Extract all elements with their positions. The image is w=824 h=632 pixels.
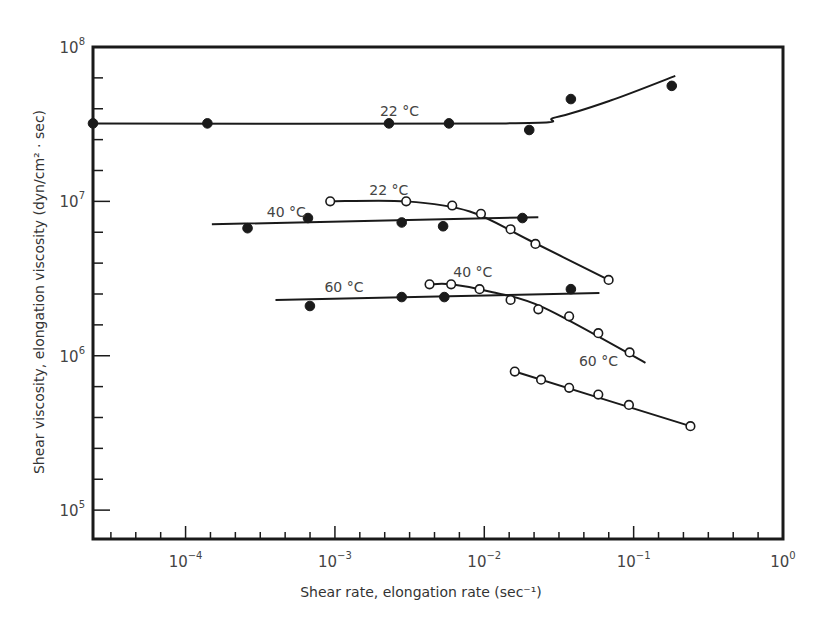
open-data-point [594, 329, 603, 338]
curve-label: 22 °C [369, 182, 408, 198]
open-data-point [326, 197, 335, 206]
filled-data-point [305, 301, 315, 311]
open-data-point [448, 201, 457, 210]
open-data-point [565, 312, 574, 321]
open-data-point [425, 280, 434, 289]
curve-label: 40 °C [267, 204, 306, 220]
filled-data-point [566, 94, 576, 104]
filled-data-point [518, 213, 528, 223]
filled-data-point [88, 119, 98, 129]
filled-data-point [397, 292, 407, 302]
filled-data-point [397, 218, 407, 228]
curve-labels: 22 °C40 °C60 °C22 °C40 °C60 °C [267, 103, 618, 368]
open-data-point [686, 422, 695, 431]
fit-curves [93, 76, 690, 426]
data-points [88, 81, 695, 430]
plot-border [93, 47, 783, 539]
curve-label: 60 °C [324, 279, 363, 295]
filled-data-point [438, 221, 448, 231]
fit-curve [212, 217, 538, 224]
x-tick-label: 10−3 [318, 550, 352, 571]
open-data-point [565, 383, 574, 392]
y-axis-ticks: 105106107108 [60, 36, 110, 520]
open-data-point [402, 197, 411, 206]
open-data-point [537, 375, 546, 384]
filled-data-point [440, 292, 450, 302]
plot-frame [93, 47, 783, 539]
filled-data-point [667, 81, 677, 91]
open-data-point [531, 240, 540, 249]
y-tick-label: 106 [60, 345, 85, 366]
viscosity-chart: 10−410−310−210−1100 105106107108 22 °C40… [0, 0, 824, 632]
curve-label: 22 °C [380, 103, 419, 119]
open-data-point [625, 401, 634, 410]
filled-data-point [444, 119, 454, 129]
open-data-point [510, 367, 519, 376]
y-tick-label: 107 [60, 190, 85, 211]
open-data-point [475, 285, 484, 294]
filled-data-point [524, 125, 534, 135]
x-axis-ticks: 10−410−310−210−1100 [111, 526, 796, 571]
curve-label: 60 °C [579, 353, 618, 369]
open-data-point [506, 296, 515, 305]
open-data-point [477, 210, 486, 219]
x-axis-title: Shear rate, elongation rate (sec⁻¹) [300, 584, 542, 600]
open-data-point [604, 276, 613, 285]
y-tick-label: 108 [60, 36, 85, 57]
open-data-point [594, 390, 603, 399]
y-axis-title: Shear viscosity, elongation viscosity (d… [31, 110, 47, 474]
open-data-point [625, 348, 634, 357]
open-data-point [447, 280, 456, 289]
filled-data-point [566, 284, 576, 294]
x-tick-label: 10−1 [617, 550, 651, 571]
filled-data-point [384, 119, 394, 129]
x-tick-label: 100 [770, 550, 795, 571]
filled-data-point [243, 223, 253, 233]
x-tick-label: 10−2 [467, 550, 501, 571]
x-tick-label: 10−4 [169, 550, 203, 571]
open-data-point [534, 305, 543, 314]
open-data-point [506, 225, 515, 234]
y-tick-label: 105 [60, 499, 85, 520]
curve-label: 40 °C [453, 264, 492, 280]
filled-data-point [203, 119, 213, 129]
